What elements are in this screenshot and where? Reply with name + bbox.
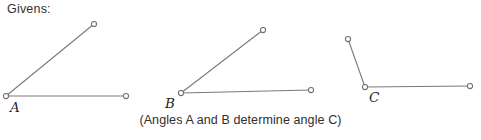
angle-a-vertex-node — [3, 93, 8, 98]
givens-figure: Givens: A B C (Angles A and B determine … — [0, 0, 481, 140]
angle-a-group — [3, 21, 128, 98]
angle-a-upper-endpoint-node — [91, 21, 96, 26]
angle-c-upper-ray — [348, 39, 365, 87]
clipped-footer-text — [0, 133, 481, 140]
angle-b-upper-endpoint-node — [260, 27, 265, 32]
angle-c-vertex-node — [362, 84, 367, 89]
figure-caption: (Angles A and B determine angle C) — [0, 114, 481, 127]
angle-a-horizontal-endpoint-node — [123, 93, 128, 98]
vertex-label-a: A — [10, 101, 20, 115]
vertex-label-b: B — [165, 97, 175, 111]
angle-b-vertex-node — [178, 90, 183, 95]
angle-b-upper-ray — [181, 30, 263, 93]
angle-b-group — [178, 27, 313, 95]
angle-c-horizontal-endpoint-node — [467, 83, 472, 88]
angle-c-group — [345, 36, 472, 89]
angle-b-horizontal-endpoint-node — [308, 87, 313, 92]
angle-c-horizontal-ray — [365, 86, 470, 87]
givens-label: Givens: — [7, 3, 51, 16]
vertex-label-c: C — [369, 91, 379, 105]
angle-c-upper-endpoint-node — [345, 36, 350, 41]
angle-a-upper-ray — [6, 24, 94, 96]
angle-b-horizontal-ray — [181, 90, 311, 93]
